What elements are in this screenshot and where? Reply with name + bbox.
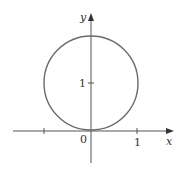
y-axis-arrow-icon: [88, 13, 94, 21]
y-axis-label: y: [79, 11, 87, 24]
origin-label: 0: [80, 133, 87, 146]
diagram-canvas: y x 0 1 1: [0, 0, 185, 172]
x-axis-label: x: [166, 135, 173, 148]
x-tick-label-1: 1: [134, 136, 141, 149]
x-axis-arrow-icon: [166, 128, 174, 134]
y-tick-label-1: 1: [79, 77, 86, 90]
